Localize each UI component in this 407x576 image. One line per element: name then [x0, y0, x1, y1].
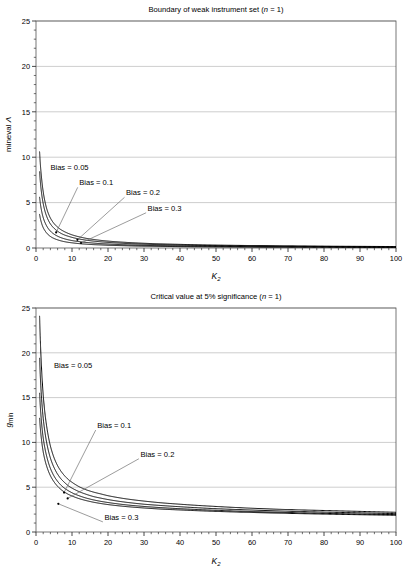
- chart-panel-critical-value: Critical value at 5% significance (n = 1…: [0, 290, 407, 576]
- x-axis-tick-label: 70: [284, 538, 292, 547]
- data-series-line: [40, 214, 396, 247]
- y-axis-label: gmin: [4, 412, 14, 427]
- x-axis-tick-label: 50: [212, 538, 220, 547]
- annotation-anchor-dot: [57, 503, 59, 505]
- y-axis-tick-label: 15: [22, 108, 30, 117]
- annotation-anchor-dot: [76, 239, 78, 241]
- x-axis-tick-label: 60: [248, 254, 256, 263]
- x-axis-tick-label: 0: [34, 254, 38, 263]
- annotation-label-bias: Bias = 0.3: [148, 204, 182, 213]
- y-axis-tick-label: 10: [22, 438, 30, 447]
- x-axis-tick-label: 80: [320, 254, 328, 263]
- annotation-label-bias: Bias = 0.3: [104, 513, 138, 522]
- y-axis-tick-label: 25: [22, 304, 30, 313]
- plot-frame: [36, 21, 396, 248]
- y-axis-tick-label: 15: [22, 393, 30, 402]
- x-axis-tick-label: 40: [176, 538, 184, 547]
- annotation-label-bias: Bias = 0.1: [97, 421, 131, 430]
- annotation-label-bias: Bias = 0.2: [126, 188, 160, 197]
- annotation-label-bias: Bias = 0.1: [79, 178, 113, 187]
- x-axis-tick-label: 50: [212, 254, 220, 263]
- y-axis-tick-label: 20: [22, 349, 30, 358]
- x-axis-tick-label: 20: [104, 538, 112, 547]
- annotation-anchor-dot: [55, 231, 57, 233]
- x-axis-tick-label: 100: [390, 538, 402, 547]
- x-axis-tick-label: 70: [284, 254, 292, 263]
- annotation-leader-line: [56, 187, 78, 232]
- x-axis-tick-label: 60: [248, 538, 256, 547]
- y-axis-label: mineval Λ: [4, 117, 13, 152]
- x-axis-tick-label: 0: [34, 538, 38, 547]
- x-axis-tick-label: 10: [68, 538, 76, 547]
- y-axis-tick-label: 0: [26, 528, 30, 537]
- x-axis-tick-label: 30: [140, 254, 148, 263]
- x-axis-tick-label: 10: [68, 254, 76, 263]
- annotation-label-bias: Bias = 0.05: [54, 361, 92, 370]
- y-axis-tick-label: 5: [26, 483, 30, 492]
- x-axis-tick-label: 30: [140, 538, 148, 547]
- chart-title: Critical value at 5% significance (n = 1…: [150, 292, 282, 301]
- x-axis-tick-label: 20: [104, 254, 112, 263]
- annotation-leader-line: [64, 430, 96, 493]
- annotation-label-bias: Bias = 0.2: [140, 450, 174, 459]
- annotation-anchor-dot: [80, 242, 82, 244]
- x-axis-label: K2: [212, 271, 222, 282]
- y-axis-tick-label: 0: [26, 244, 30, 253]
- x-axis-tick-label: 90: [356, 254, 364, 263]
- y-axis-tick-label: 25: [22, 17, 30, 26]
- y-axis-tick-label: 10: [22, 153, 30, 162]
- chart-title: Boundary of weak instrument set (n = 1): [149, 5, 284, 14]
- x-axis-tick-label: 80: [320, 538, 328, 547]
- x-axis-tick-label: 90: [356, 538, 364, 547]
- x-axis-label: K2: [212, 556, 222, 567]
- annotation-label-bias: Bias = 0.05: [50, 163, 88, 172]
- x-axis-tick-label: 40: [176, 254, 184, 263]
- y-axis-tick-label: 20: [22, 62, 30, 71]
- critical-value-chart-svg: Critical value at 5% significance (n = 1…: [0, 290, 407, 576]
- y-axis-tick-label: 5: [26, 198, 30, 207]
- x-axis-tick-label: 100: [390, 254, 402, 263]
- boundary-chart-svg: Boundary of weak instrument set (n = 1)0…: [0, 0, 407, 290]
- chart-panel-boundary: Boundary of weak instrument set (n = 1)0…: [0, 0, 407, 290]
- plot-frame: [36, 308, 396, 532]
- data-series-line: [40, 418, 396, 515]
- annotation-leader-line: [58, 504, 103, 522]
- data-series-line: [40, 316, 396, 512]
- data-series-line: [40, 152, 396, 247]
- annotation-anchor-dot: [63, 491, 65, 493]
- annotation-anchor-dot: [67, 497, 69, 499]
